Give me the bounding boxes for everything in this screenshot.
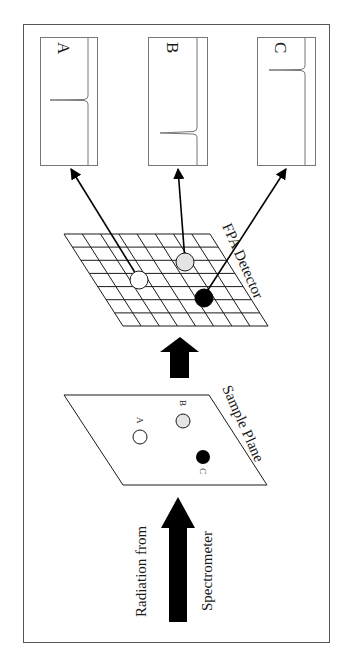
spectrum-label-a: A [54, 42, 73, 55]
spectrum-label-c: C [271, 42, 290, 53]
sample-label-c: C [198, 468, 208, 474]
sample-spot-b [176, 414, 190, 428]
spectrum-panel-c: C [258, 38, 316, 166]
diagram-canvas: A B C [0, 0, 346, 663]
detector-spot-b [176, 253, 194, 271]
spectrum-panel-a: A [41, 38, 98, 166]
source-label-line1: Radiation from [133, 525, 149, 617]
detector-spot-c [195, 289, 213, 307]
sample-spot-a [133, 430, 147, 444]
arrow-to-spectrum-a [71, 169, 139, 279]
radiation-arrow-up-icon [161, 497, 195, 622]
spectrum-label-b: B [163, 42, 182, 53]
thick-arrow-up-icon [160, 337, 199, 378]
source-label-line2: Spectrometer [199, 531, 215, 611]
sample-label-a: A [135, 417, 145, 424]
detector-spot-a [130, 271, 148, 289]
spectrum-panel-b: B [149, 38, 208, 166]
sample-label-b: B [178, 400, 188, 406]
sample-spot-c [196, 450, 210, 464]
